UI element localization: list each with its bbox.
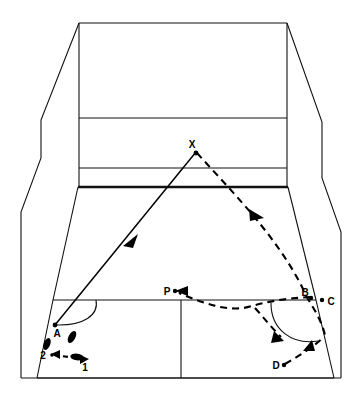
dashed-footwork-down bbox=[255, 308, 281, 337]
dot-d bbox=[282, 363, 286, 367]
dot-p bbox=[173, 289, 177, 293]
solid-trajectory-group bbox=[55, 152, 196, 325]
marker-dots bbox=[50, 151, 324, 368]
arrowhead-flight-mid bbox=[249, 209, 264, 221]
court-right-sideline-upper bbox=[288, 187, 316, 300]
dot-c bbox=[320, 298, 324, 302]
label-x: X bbox=[189, 139, 196, 150]
dashed-ball-flight-X-to-C bbox=[197, 153, 305, 293]
label-b: B bbox=[301, 287, 308, 298]
dashed-footwork-right bbox=[255, 308, 324, 364]
dot-a bbox=[53, 323, 58, 328]
label-a: A bbox=[53, 328, 60, 339]
label-p: P bbox=[164, 286, 171, 297]
footprint-upper-right bbox=[66, 330, 78, 345]
right-outer-wall bbox=[287, 23, 341, 378]
label-two: 2 bbox=[40, 350, 46, 361]
court-diagram: X P A B C D 1 2 bbox=[0, 0, 361, 396]
dot-b bbox=[309, 296, 313, 300]
swing-arc-left bbox=[55, 300, 96, 325]
label-d: D bbox=[272, 360, 279, 371]
court-right-sideline-lower bbox=[316, 300, 334, 378]
label-c: C bbox=[327, 296, 334, 307]
arrowhead-solid-mid bbox=[123, 234, 138, 248]
dashed-return-to-P bbox=[179, 293, 310, 308]
dashed-flight-group bbox=[197, 153, 325, 335]
label-one: 1 bbox=[82, 362, 88, 373]
court-left-sideline-lower bbox=[37, 300, 53, 378]
arrowhead-footwork-down bbox=[271, 331, 284, 343]
dot-two bbox=[50, 353, 54, 357]
dot-x bbox=[194, 151, 199, 156]
court-left-sideline-upper bbox=[53, 187, 78, 300]
dashed-return-group bbox=[175, 286, 310, 308]
solid-stroke-A-to-X bbox=[55, 152, 196, 325]
